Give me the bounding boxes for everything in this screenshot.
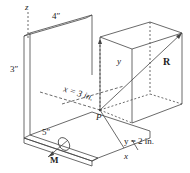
diagram-canvas: z 4″ 3″ y R x = 3 in. P 5″ y = 2 in. x M [0, 0, 190, 173]
x-axis-label: x [124, 152, 128, 161]
y-axis-label: y [117, 57, 121, 66]
y-coordinate-label: y = 2 in. [124, 137, 154, 146]
resultant-label: R [163, 57, 170, 67]
z-axis-label: z [25, 3, 29, 12]
bracket-diagram [0, 0, 190, 173]
point-p-label: P [96, 113, 102, 122]
width-dimension-label: 4″ [52, 12, 60, 21]
moment-label: M [50, 156, 59, 165]
depth-dimension-label: 5″ [42, 128, 50, 137]
height-dimension-label: 3″ [10, 65, 18, 74]
